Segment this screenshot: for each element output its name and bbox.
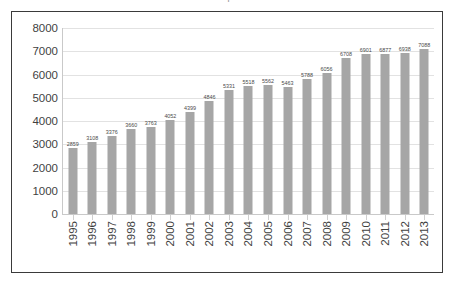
bar-value-label-2006: 5463 [282, 80, 294, 86]
y-axis-tick-1000: 1000 [32, 185, 58, 197]
bar-2002[interactable] [205, 101, 214, 214]
x-axis-tick-labels: 1995199619971998199920002001200220032004… [63, 215, 434, 261]
bar-value-label-2012: 6938 [399, 46, 411, 52]
bar-2012[interactable] [400, 53, 409, 214]
bar-2004[interactable] [244, 86, 253, 214]
bar-value-label-2001: 4399 [184, 105, 196, 111]
x-tick-mark-2008 [327, 215, 328, 220]
bar-slot-2001: 4399 [180, 28, 200, 214]
x-slot-2008: 2008 [317, 215, 337, 261]
bar-1998[interactable] [127, 129, 136, 214]
bar-1999[interactable] [146, 127, 155, 214]
bar-value-label-1999: 3763 [145, 120, 157, 126]
bar-value-label-1998: 3660 [125, 122, 137, 128]
bar-slot-2010: 6901 [356, 28, 376, 214]
bar-value-label-2009: 6708 [340, 51, 352, 57]
bar-2003[interactable] [224, 90, 233, 214]
x-tick-mark-2001 [190, 215, 191, 220]
bar-1996[interactable] [88, 142, 97, 214]
bar-slot-2012: 6938 [395, 28, 415, 214]
cut-off-caption: cut-off caption line [0, 0, 454, 11]
bar-slot-1999: 3763 [141, 28, 161, 214]
x-axis-label-1998: 1998 [125, 221, 137, 247]
x-tick-mark-2003 [229, 215, 230, 220]
x-axis-label-2001: 2001 [184, 221, 196, 247]
x-axis-label-2005: 2005 [262, 221, 274, 247]
x-slot-1998: 1998 [122, 215, 142, 261]
bar-slot-1997: 3376 [102, 28, 122, 214]
bar-2009[interactable] [342, 58, 351, 214]
bar-slot-2005: 5562 [258, 28, 278, 214]
bar-value-label-2011: 6877 [379, 47, 391, 53]
bar-2008[interactable] [322, 73, 331, 214]
x-axis-label-2000: 2000 [164, 221, 176, 247]
bar-value-label-2010: 6901 [360, 47, 372, 53]
x-slot-2009: 2009 [336, 215, 356, 261]
x-slot-2012: 2012 [395, 215, 415, 261]
x-slot-2013: 2013 [414, 215, 434, 261]
chart-figure: cut-off caption line 8000700060005000400… [0, 0, 454, 283]
x-tick-mark-2012 [405, 215, 406, 220]
x-slot-1999: 1999 [141, 215, 161, 261]
plot-wrapper: 800070006000500040003000200010000 285931… [12, 12, 442, 272]
caption-text: cut-off caption line [191, 0, 264, 2]
x-slot-1997: 1997 [102, 215, 122, 261]
x-tick-mark-1999 [151, 215, 152, 220]
x-axis-label-2010: 2010 [360, 221, 372, 247]
x-slot-2002: 2002 [200, 215, 220, 261]
x-tick-mark-2009 [346, 215, 347, 220]
x-slot-1995: 1995 [63, 215, 83, 261]
bar-value-label-2008: 6056 [321, 66, 333, 72]
x-tick-mark-2000 [170, 215, 171, 220]
bar-2005[interactable] [264, 85, 273, 214]
bar-2011[interactable] [381, 54, 390, 214]
x-tick-mark-2011 [385, 215, 386, 220]
x-axis-label-2013: 2013 [418, 221, 430, 247]
chart-frame-border: 800070006000500040003000200010000 285931… [11, 11, 443, 273]
bar-value-label-2007: 5788 [301, 72, 313, 78]
x-slot-2010: 2010 [356, 215, 376, 261]
bar-value-label-2013: 7088 [418, 42, 430, 48]
x-slot-2000: 2000 [161, 215, 181, 261]
bar-2010[interactable] [361, 54, 370, 214]
bar-value-label-1995: 2859 [67, 141, 79, 147]
y-axis-tick-0: 0 [52, 208, 58, 220]
bar-2007[interactable] [303, 79, 312, 214]
bar-2001[interactable] [185, 112, 194, 214]
bar-slot-2006: 5463 [278, 28, 298, 214]
x-slot-2005: 2005 [258, 215, 278, 261]
bar-slot-1998: 3660 [122, 28, 142, 214]
x-tick-mark-2013 [424, 215, 425, 220]
y-axis-tick-7000: 7000 [32, 45, 58, 57]
x-tick-mark-2010 [366, 215, 367, 220]
x-tick-mark-2002 [209, 215, 210, 220]
bar-value-label-1997: 3376 [106, 129, 118, 135]
x-slot-1996: 1996 [83, 215, 103, 261]
x-axis-label-2006: 2006 [282, 221, 294, 247]
x-slot-2007: 2007 [297, 215, 317, 261]
x-tick-mark-1996 [92, 215, 93, 220]
x-axis-label-2008: 2008 [321, 221, 333, 247]
x-axis-label-1997: 1997 [106, 221, 118, 247]
bar-slot-2003: 5331 [219, 28, 239, 214]
bar-2006[interactable] [283, 87, 292, 214]
y-axis-tick-3000: 3000 [32, 138, 58, 150]
x-slot-2011: 2011 [375, 215, 395, 261]
bar-1995[interactable] [68, 148, 77, 214]
bar-1997[interactable] [107, 136, 116, 214]
bar-slot-2011: 6877 [375, 28, 395, 214]
plot-area: 2859310833763660376340524399484653315518… [63, 28, 434, 214]
x-axis-label-1996: 1996 [86, 221, 98, 247]
bar-slot-1996: 3108 [83, 28, 103, 214]
y-axis-tick-2000: 2000 [32, 162, 58, 174]
bar-slot-1995: 2859 [63, 28, 83, 214]
bar-2013[interactable] [420, 49, 429, 214]
bar-slot-2004: 5518 [239, 28, 259, 214]
bar-value-label-2000: 4052 [164, 113, 176, 119]
x-axis-label-2009: 2009 [340, 221, 352, 247]
x-axis-label-1999: 1999 [145, 221, 157, 247]
x-slot-2003: 2003 [219, 215, 239, 261]
bar-2000[interactable] [166, 120, 175, 214]
bar-value-label-2003: 5331 [223, 83, 235, 89]
bar-series: 2859310833763660376340524399484653315518… [63, 28, 434, 214]
